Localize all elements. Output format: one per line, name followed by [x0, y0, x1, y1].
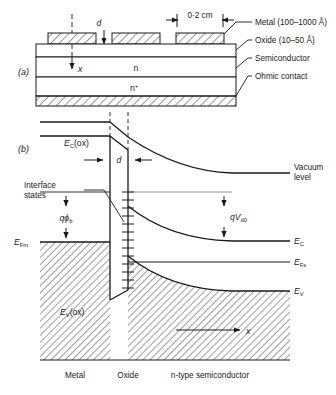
pad-width-label: 0·2 cm — [187, 11, 212, 20]
n-layer-label: n — [134, 63, 139, 73]
interface-states-leader — [84, 190, 124, 222]
region-label-semiconductor: n-type semiconductor — [171, 371, 250, 380]
diffusion-potential-label: qVd0 — [230, 212, 248, 223]
semiconductor-fermi-label: EFs — [294, 257, 306, 268]
metal-pad — [176, 33, 224, 44]
metal-pad — [48, 33, 96, 44]
region-label-metal: Metal — [65, 371, 85, 380]
pad-width-dimension: 0·2 cm — [166, 11, 234, 27]
metal-pads — [48, 33, 224, 44]
vacuum-level-label-line2: level — [294, 173, 311, 182]
mos-tunnel-diode-figure: (a) n n+ x d 0·2 — [0, 0, 336, 395]
panel-a-label: (a) — [18, 67, 29, 77]
figure-canvas: (a) n n+ x d 0·2 — [0, 0, 336, 395]
x-depth-label: x — [77, 64, 83, 74]
oxide-thickness-dimension: d — [84, 155, 152, 165]
callout-oxide: Oxide (10–50 Å) — [255, 35, 315, 45]
region-label-oxide: Oxide — [117, 371, 139, 380]
oxide-conduction-label: EC(ox) — [64, 138, 89, 149]
interface-states-label-line1: Interface — [24, 181, 56, 190]
conduction-band-curve — [128, 206, 290, 241]
metal-pad — [112, 33, 160, 44]
oxide-valence-slope — [110, 290, 128, 300]
oxide-valence-label: EV(ox) — [60, 307, 85, 318]
oxide-thickness-label: d — [117, 155, 122, 165]
metal-filled-states — [40, 242, 110, 360]
metal-fermi-label: EFm — [14, 237, 28, 248]
gap-label: d — [97, 18, 102, 28]
oxide-conduction-slope — [110, 136, 128, 150]
conduction-band-label: EC — [294, 236, 305, 247]
callout-ohmic-contact: Ohmic contact — [255, 72, 308, 81]
x-direction-label: x — [245, 326, 251, 336]
panel-b-label: (b) — [18, 144, 29, 154]
panel-b: (b) Vacuum level EC(ox) d EFm EC — [14, 112, 324, 380]
valence-band-label: EV — [294, 286, 304, 297]
callout-metal: Metal (100–1000 Å) — [255, 17, 327, 27]
panel-a: (a) n n+ x d 0·2 — [18, 11, 327, 106]
barrier-height-label: qϕb — [60, 213, 74, 224]
barrier-height-dimension: qϕb — [40, 192, 110, 238]
vacuum-level-oxide-drop — [110, 122, 128, 137]
ohmic-contact-layer — [36, 96, 236, 106]
oxide-layer — [36, 44, 236, 57]
vacuum-level-label-line1: Vacuum — [294, 163, 324, 172]
vacuum-level-semiconductor-curve — [128, 137, 290, 173]
diffusion-potential-dimension: qVd0 — [224, 196, 248, 237]
callout-semiconductor: Semiconductor — [255, 54, 310, 63]
